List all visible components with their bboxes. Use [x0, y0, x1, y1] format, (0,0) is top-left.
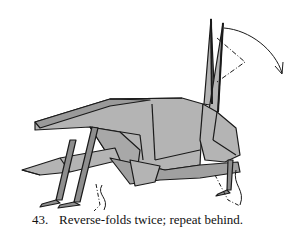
fold-hint-curve-front [100, 185, 105, 210]
antennae [204, 19, 223, 112]
step-caption: 43.Reverse-folds twice; repeat behind. [32, 212, 243, 228]
step-instruction: Reverse-folds twice; repeat behind. [59, 212, 243, 227]
origami-diagram [0, 0, 304, 212]
head [200, 104, 240, 162]
fold-hint-curve-hind [235, 170, 241, 205]
fold-direction-arrow [224, 28, 282, 73]
reverse-fold-line-front-leg [94, 184, 100, 211]
arrowhead-icon [275, 62, 283, 74]
step-number: 43. [32, 212, 59, 228]
